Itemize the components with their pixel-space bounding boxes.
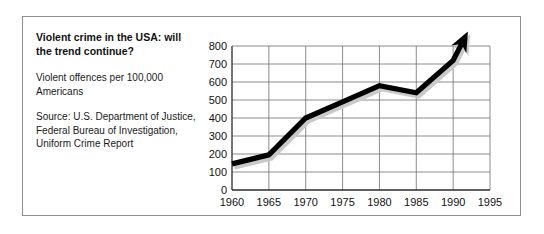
caption-block: Violent crime in the USA: will the trend…	[36, 31, 196, 151]
y-axis-tick-label: 500	[209, 94, 227, 106]
y-axis-tick-label: 200	[209, 148, 227, 160]
line-chart-svg: 0100200300400500600700800 19601965197019…	[196, 20, 526, 216]
x-axis-tick-label: 1970	[293, 196, 317, 208]
y-axis-tick-label: 600	[209, 76, 227, 88]
x-axis-tick-label: 1960	[220, 196, 244, 208]
chart-title: Violent crime in the USA: will the trend…	[36, 31, 196, 58]
y-axis-tick-label: 400	[209, 112, 227, 124]
x-axis-tick-label: 1980	[367, 196, 391, 208]
y-axis-tick-label: 0	[221, 184, 227, 196]
x-axis-tick-label: 1965	[257, 196, 281, 208]
chart-figure: Violent crime in the USA: will the trend…	[0, 0, 544, 234]
x-axis-tick-label: 1990	[441, 196, 465, 208]
x-axis-tick-labels: 19601965197019751980198519901995	[220, 196, 502, 208]
y-axis-tick-label: 300	[209, 130, 227, 142]
chart-subject-note: Violent offences per 100,000 Americans	[36, 71, 196, 98]
y-axis-tick-labels: 0100200300400500600700800	[209, 40, 227, 196]
chart-source-note: Source: U.S. Department of Justice, Fede…	[36, 110, 196, 151]
x-axis-tick-label: 1995	[478, 196, 502, 208]
y-axis-tick-label: 800	[209, 40, 227, 52]
plot-area: 0100200300400500600700800 19601965197019…	[196, 20, 526, 216]
x-axis-tick-label: 1985	[404, 196, 428, 208]
x-axis-tick-label: 1975	[330, 196, 354, 208]
y-axis-tick-label: 100	[209, 166, 227, 178]
y-axis-tick-label: 700	[209, 58, 227, 70]
